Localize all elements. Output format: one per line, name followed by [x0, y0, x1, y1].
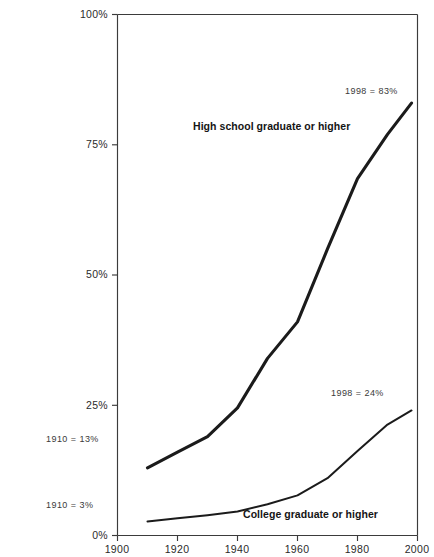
series-label-high-school: High school graduate or higher	[193, 120, 350, 132]
data-series-group	[148, 103, 412, 521]
annotation-hs-end: 1998 = 83%	[345, 86, 398, 96]
x-axis-label-1920: 1920	[154, 543, 200, 555]
series-line-high-school	[148, 103, 412, 468]
y-axis-label-100: 100%	[62, 8, 108, 20]
y-axis-label-25: 25%	[62, 399, 108, 411]
series-label-college: College graduate or higher	[243, 508, 378, 520]
y-axis-label-50: 50%	[62, 268, 108, 280]
x-axis-label-1980: 1980	[334, 543, 380, 555]
y-tick-marks	[112, 15, 118, 536]
series-line-college	[148, 410, 412, 521]
y-axis-label-0: 0%	[62, 529, 108, 541]
x-axis-label-1940: 1940	[214, 543, 260, 555]
x-tick-marks	[118, 536, 418, 542]
x-axis-label-1900: 1900	[94, 543, 140, 555]
y-axis-label-75: 75%	[62, 138, 108, 150]
annotation-hs-start: 1910 = 13%	[46, 434, 99, 444]
annotation-col-end: 1998 = 24%	[331, 388, 384, 398]
annotation-col-start: 1910 = 3%	[46, 500, 93, 510]
x-axis-label-1960: 1960	[274, 543, 320, 555]
x-axis-label-2000: 2000	[394, 543, 434, 555]
